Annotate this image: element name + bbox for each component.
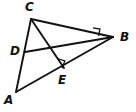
vertex-label-a: A (4, 94, 13, 106)
segment-cb (31, 19, 113, 37)
vertex-label-b: B (120, 31, 129, 43)
geometry-figure: C B D E A (0, 0, 136, 112)
figure-canvas (0, 0, 136, 112)
vertex-label-c: C (25, 1, 34, 13)
vertex-label-e: E (58, 74, 66, 86)
vertex-label-d: D (10, 45, 20, 57)
segment-ce (31, 19, 64, 68)
